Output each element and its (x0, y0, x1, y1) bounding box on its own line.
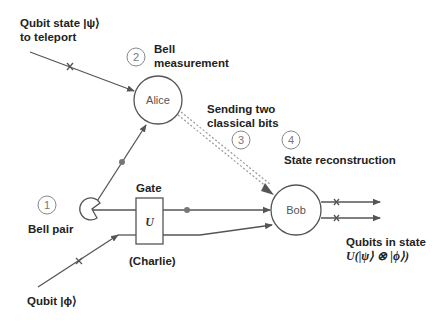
step-1-marker: 1 (38, 196, 56, 214)
step-3-marker: 3 (232, 131, 250, 149)
psi-input-wire (30, 52, 134, 91)
gate-output-dot (184, 207, 190, 213)
gate-label: Gate (136, 181, 162, 195)
qubit-psi-label: Qubit state |ψ⟩ to teleport (20, 16, 100, 44)
bell-pair-to-alice-wire (92, 125, 146, 209)
bell-pair-label: Bell pair (28, 222, 73, 236)
qubit-phi-label: Qubit |ϕ⟩ (27, 294, 77, 308)
step-2-marker: 2 (127, 48, 145, 66)
sending-classical-bits-label: Sending two classical bits (207, 102, 279, 130)
bob-label: Bob (286, 204, 306, 216)
svg-text:4: 4 (288, 134, 294, 146)
bell-measurement-label: Bell measurement (154, 42, 229, 70)
state-reconstruction-label: State reconstruction (284, 153, 396, 167)
charlie-label: (Charlie) (129, 254, 176, 268)
bell-pair-source-icon (80, 198, 100, 220)
gate-to-bob-lower-wire (163, 225, 272, 235)
svg-text:1: 1 (44, 199, 50, 211)
entanglement-dot (119, 159, 125, 165)
output-state-label: Qubits in state U(|ψ⟩ ⊗ |ϕ⟩) (346, 235, 426, 263)
step-4-marker: 4 (282, 131, 300, 149)
svg-text:3: 3 (238, 134, 244, 146)
alice-label: Alice (146, 94, 170, 106)
svg-text:2: 2 (133, 51, 139, 63)
gate-u-symbol: U (145, 215, 155, 229)
phi-input-wire (38, 235, 118, 287)
